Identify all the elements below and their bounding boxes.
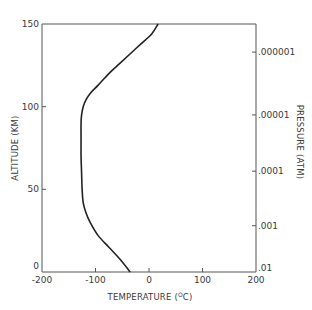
y-tick-label: 50	[28, 184, 40, 194]
y-tick-label: 150	[22, 19, 39, 29]
y-tick-label: 100	[22, 102, 39, 112]
x-tick-label: -200	[32, 275, 53, 285]
axes-group	[42, 24, 256, 272]
y-tick-label: 0	[33, 261, 39, 271]
x-tick-label: 0	[146, 275, 152, 285]
y2-tick-label: .000001	[258, 47, 295, 57]
y2-axis-title: PRESSURE (ATM)	[295, 105, 305, 180]
y2-tick-label: .00001	[258, 110, 290, 120]
x-tick-label: -100	[85, 275, 106, 285]
series-group	[81, 24, 158, 272]
x-tick-label: 200	[247, 275, 264, 285]
ticks-group: -200-1000100200050100150.01.001.0001.000…	[22, 19, 295, 285]
x-axis-title: TEMPERATURE (OC)	[106, 291, 192, 302]
y2-tick-label: .001	[258, 221, 278, 231]
temperature-profile-line	[81, 24, 158, 272]
altitude-temperature-chart: -200-1000100200050100150.01.001.0001.000…	[0, 0, 312, 310]
y-axis-title: ALTITUDE (KM)	[10, 115, 20, 180]
y2-tick-label: .0001	[258, 166, 284, 176]
y2-tick-label: .01	[258, 263, 272, 273]
x-tick-label: 100	[194, 275, 211, 285]
